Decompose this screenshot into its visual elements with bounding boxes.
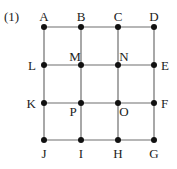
point-label-O: O <box>119 104 128 119</box>
grid-diagram: (1) ABCDLMNEKPOFJIHG <box>0 0 177 169</box>
point-L <box>41 62 47 68</box>
point-P <box>78 100 84 106</box>
point-H <box>115 137 121 143</box>
point-J <box>41 137 47 143</box>
problem-label: (1) <box>4 9 19 24</box>
point-label-A: A <box>39 9 49 24</box>
point-label-N: N <box>119 49 129 64</box>
point-G <box>151 137 157 143</box>
point-label-D: D <box>149 9 158 24</box>
point-label-P: P <box>69 104 76 119</box>
point-label-I: I <box>79 146 83 161</box>
point-label-L: L <box>28 58 36 73</box>
grid-points <box>41 24 157 143</box>
point-label-J: J <box>41 146 46 161</box>
point-F <box>151 100 157 106</box>
point-C <box>115 24 121 30</box>
point-label-H: H <box>113 146 122 161</box>
point-label-F: F <box>161 96 168 111</box>
point-A <box>41 24 47 30</box>
point-label-C: C <box>114 9 123 24</box>
point-B <box>78 24 84 30</box>
point-E <box>151 62 157 68</box>
point-K <box>41 100 47 106</box>
point-I <box>78 137 84 143</box>
grid-lines <box>44 27 154 140</box>
point-label-B: B <box>77 9 86 24</box>
point-label-E: E <box>161 58 169 73</box>
point-labels: ABCDLMNEKPOFJIHG <box>27 9 169 161</box>
point-label-K: K <box>27 96 37 111</box>
point-label-G: G <box>149 146 158 161</box>
point-D <box>151 24 157 30</box>
point-label-M: M <box>69 49 81 64</box>
